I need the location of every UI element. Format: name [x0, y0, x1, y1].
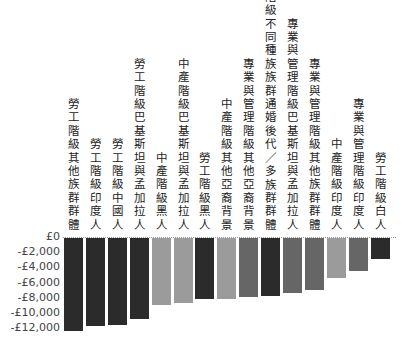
category-label: 專業與管理階級其他亞裔背景	[242, 58, 256, 232]
bar-working	[261, 238, 280, 296]
bar-middle	[217, 238, 236, 299]
bar-middle	[152, 238, 171, 305]
bar-chart: £0-£2,000-£4,000-£6,000-£8,000-£10,000-£…	[0, 0, 411, 355]
category-label: 中產階級印度人	[329, 138, 343, 232]
bar-working	[371, 238, 390, 259]
category-label: 專業與管理階級印度人	[351, 98, 365, 232]
bar-working	[195, 238, 214, 299]
category-label: 中產階級巴基斯坦與孟加拉人	[176, 58, 190, 232]
bar-working	[64, 238, 83, 331]
category-label: 勞工階級白人	[373, 152, 387, 232]
category-label: 中產階級其他亞裔背景	[220, 98, 234, 232]
category-label: 勞工階級黑人	[198, 152, 212, 232]
y-tick-label: -£12,000	[11, 322, 60, 334]
category-label: 勞工階級中國人	[110, 138, 124, 232]
y-tick-label: -£6,000	[18, 277, 60, 289]
category-label: 勞工階級印度人	[88, 138, 102, 232]
y-tick-label: £0	[46, 231, 60, 243]
y-tick-label: -£10,000	[11, 307, 60, 319]
category-label: 勞工階級巴基斯坦與孟加拉人	[132, 58, 146, 232]
bar-middle	[327, 238, 346, 278]
bar-professional	[305, 238, 324, 290]
y-tick-label: -£8,000	[18, 292, 60, 304]
bar-working	[108, 238, 127, 325]
bar-working	[86, 238, 105, 326]
y-tick-label: -£4,000	[18, 261, 60, 273]
bar-professional	[239, 238, 258, 297]
category-label: 中產階級黑人	[154, 152, 168, 232]
category-label: 專業與管理階級其他族群群體	[307, 58, 321, 232]
category-label: 勞工階級其他族群群體	[67, 98, 81, 232]
category-label: 專業與管理階級巴基斯坦與孟加拉人	[286, 18, 300, 233]
bar-professional	[349, 238, 368, 271]
category-label: 勞工階級不同種族族群通婚後代／多族群群體	[264, 0, 278, 232]
bar-middle	[174, 238, 193, 303]
bar-working	[130, 238, 149, 319]
y-tick-label: -£2,000	[18, 246, 60, 258]
bar-professional	[283, 238, 302, 293]
